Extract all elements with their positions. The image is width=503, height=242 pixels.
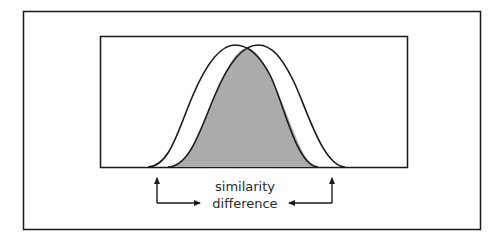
difference-label: difference — [185, 196, 305, 212]
similarity-label: similarity — [185, 179, 305, 195]
